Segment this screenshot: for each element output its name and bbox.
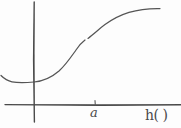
x-axis-label: h( ) <box>145 108 167 122</box>
y-axis-line <box>34 2 35 122</box>
hand-drawn-graph-figure: a h( ) <box>0 0 181 128</box>
curve-rising-body <box>34 40 85 82</box>
curve-upper-body <box>88 9 160 39</box>
x-tick-label-a: a <box>90 106 98 119</box>
curve-left-tail <box>1 76 34 83</box>
